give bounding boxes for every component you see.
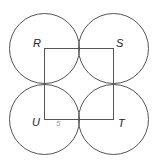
vertex-label-s: S	[116, 37, 124, 49]
geometry-diagram: R S U T 5	[0, 0, 154, 164]
vertex-label-t: T	[118, 117, 126, 129]
vertex-label-r: R	[33, 37, 41, 49]
diagram-canvas: R S U T 5	[0, 0, 154, 164]
vertex-label-u: U	[32, 116, 40, 128]
square-rstu	[45, 49, 114, 120]
side-length-mark: 5	[56, 119, 61, 128]
